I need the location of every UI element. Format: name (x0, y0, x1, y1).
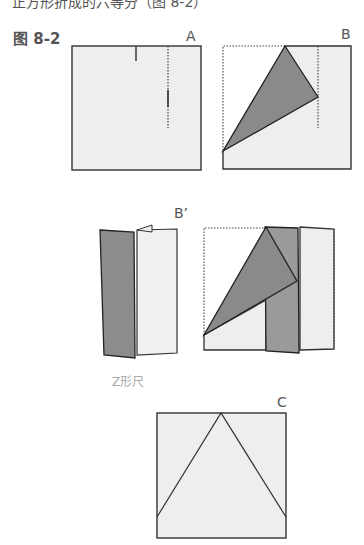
diagram-b (223, 46, 351, 169)
diagram-b-prime (204, 227, 334, 353)
diagram-z-fold (100, 225, 177, 358)
origami-diagram (0, 0, 364, 545)
diagram-c (157, 413, 286, 538)
diagram-a (72, 46, 201, 170)
